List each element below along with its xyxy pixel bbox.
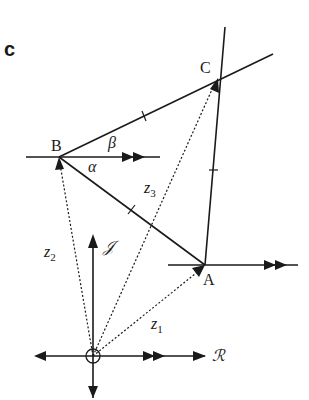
ref-A-arrow-icon (264, 260, 276, 270)
real-axis-double-arrow-icon-2 (153, 351, 165, 361)
z2-label: z2 (43, 243, 56, 263)
side-BA (59, 157, 205, 265)
real-axis-arrow-icon (193, 351, 206, 361)
imag-axis-label: 𝒥 (102, 238, 120, 256)
z3-label: z3 (143, 179, 156, 199)
imag-axis-down-arrow-icon (88, 386, 98, 398)
z1-vector (93, 270, 200, 356)
real-axis-left-arrow-icon (34, 351, 46, 361)
point-C-label: C (200, 59, 211, 76)
alpha-label: α (88, 158, 97, 175)
z1-label: z1 (150, 315, 163, 335)
imag-axis (88, 234, 98, 398)
panel-label: c (4, 38, 15, 60)
ref-A-arrow-icon-2 (275, 260, 287, 270)
line-BC (59, 54, 273, 157)
point-B-label: B (51, 137, 62, 154)
real-axis-label: ℛ (212, 347, 226, 364)
z2-vector (60, 164, 93, 356)
real-axis (34, 351, 206, 361)
imag-axis-up-arrow-icon (88, 234, 98, 248)
complex-plane-diagram: c 𝒥 ℛ B C A β α z2 z3 z1 (0, 0, 309, 400)
ref-B-arrow-icon (122, 152, 134, 162)
point-A-label: A (203, 271, 215, 288)
ref-B-arrow-icon-2 (133, 152, 145, 162)
beta-label: β (107, 134, 116, 152)
